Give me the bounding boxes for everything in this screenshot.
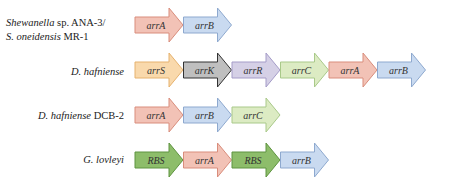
gene-label: arrB — [389, 65, 408, 76]
gene-label: arrA — [147, 110, 167, 121]
gene-label: arrA — [195, 155, 215, 166]
gene-label: arrS — [147, 65, 165, 76]
gene-label: arrB — [195, 20, 214, 31]
gene-label: arrR — [244, 65, 263, 76]
gene-label: RBS — [243, 155, 261, 166]
gene-label: arrA — [147, 20, 167, 31]
gene-label: RBS — [146, 155, 164, 166]
gene-label: arrC — [243, 110, 263, 121]
gene-label: arrC — [292, 65, 312, 76]
gene-label: arrK — [195, 65, 216, 76]
gene-label: arrB — [195, 110, 214, 121]
gene-cluster-diagram: arrAarrBarrSarrKarrRarrCarrAarrBarrAarrB… — [0, 0, 449, 184]
gene-label: arrA — [341, 65, 361, 76]
gene-label: arrB — [292, 155, 311, 166]
